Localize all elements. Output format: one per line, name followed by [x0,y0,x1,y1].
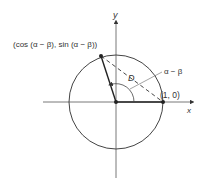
angle-arc [111,84,135,102]
origin-dot [114,100,118,104]
angle-leader-line [130,72,162,89]
point-a-label: (cos (α − β), sin (α − β)) [13,40,98,49]
unit-circle-diagram: y x (cos (α − β), sin (α − β)) (1, 0) D … [0,0,202,188]
point-a-dot [99,54,103,58]
angle-label: α − β [164,67,183,76]
radius-to-point-a [101,56,116,102]
x-axis-label: x [186,106,192,115]
distance-label: D [128,73,135,83]
y-axis-label: y [112,10,118,20]
point-b-dot [161,100,165,104]
point-b-label: (1, 0) [160,90,180,100]
